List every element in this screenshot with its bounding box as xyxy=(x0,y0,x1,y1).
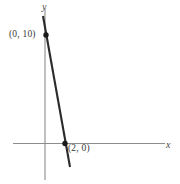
y-axis-label: y xyxy=(42,1,46,12)
graph-canvas xyxy=(0,0,180,184)
coordinate-graph-figure: (0, 10) (2, 0) y x xyxy=(0,0,180,184)
data-point-label-y-intercept: (0, 10) xyxy=(9,29,36,40)
data-point-y-intercept xyxy=(43,32,48,37)
data-point-x-intercept xyxy=(62,141,67,146)
data-point-label-x-intercept: (2, 0) xyxy=(68,143,90,154)
x-axis-label: x xyxy=(166,139,170,150)
